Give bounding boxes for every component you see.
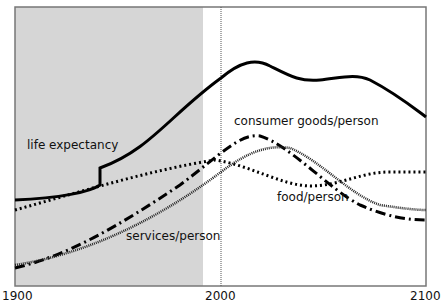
label-food: food/person (277, 190, 349, 204)
label-consumer-goods: consumer goods/person (234, 114, 379, 128)
x-tick-2000: 2000 (205, 289, 236, 303)
x-tick-2100: 2100 (410, 289, 441, 303)
chart: life expectancy consumer goods/person fo… (0, 0, 441, 307)
label-life-expectancy: life expectancy (27, 138, 118, 152)
label-services: services/person (126, 229, 220, 243)
x-tick-1900: 1900 (2, 289, 33, 303)
plot-area (0, 0, 441, 307)
